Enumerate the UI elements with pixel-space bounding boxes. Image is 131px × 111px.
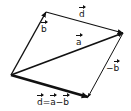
eq-d: d — [37, 98, 43, 107]
vector-neg-b-label: b — [114, 64, 120, 73]
vector-b-label: b — [41, 25, 47, 34]
vector-a-label: a — [76, 38, 82, 47]
eq-equals: = — [43, 97, 51, 107]
label-a: a — [76, 38, 82, 47]
label-d-top: d — [79, 10, 85, 19]
minus-sign: − — [106, 63, 114, 73]
eq-a: a — [50, 98, 56, 107]
vector-d-result-arrow — [11, 75, 88, 97]
label-neg-b: −b — [106, 64, 119, 73]
eq-minus: − — [56, 97, 64, 107]
eq-b: b — [63, 98, 69, 107]
label-b: b — [41, 25, 47, 34]
label-d-equation: d=a−b — [37, 98, 69, 107]
vector-d-top-label: d — [79, 10, 85, 19]
